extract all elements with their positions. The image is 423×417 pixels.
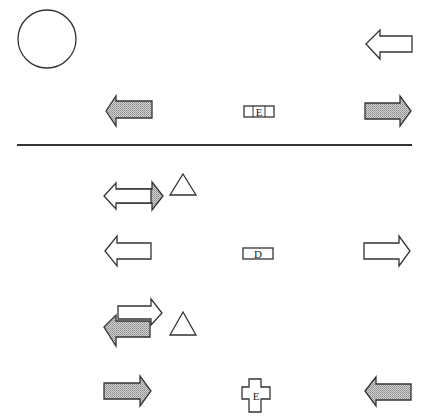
- left-arrow-icon: [105, 236, 151, 266]
- diagram-canvas: E D: [0, 0, 423, 417]
- row-4: E: [104, 376, 411, 412]
- right-arrow-icon: [364, 236, 410, 266]
- triangle-shape: [170, 174, 196, 195]
- right-arrow-icon: [365, 96, 411, 126]
- left-arrow-icon: [104, 183, 151, 209]
- left-arrow-icon: [106, 96, 152, 126]
- row-3: [104, 299, 196, 346]
- bottom-panel: D E: [104, 174, 411, 412]
- label-text: D: [254, 248, 262, 260]
- row-2: D: [105, 236, 410, 266]
- left-arrow-icon: [366, 30, 412, 59]
- triangle-shape: [170, 312, 196, 335]
- left-arrow-icon: [365, 377, 411, 406]
- label-box-d: D: [243, 248, 273, 260]
- label-text: E: [256, 106, 263, 118]
- label-box-e: E: [244, 106, 274, 118]
- row-1: [104, 174, 196, 210]
- label-cross-e: E: [242, 379, 270, 412]
- right-arrow-icon: [104, 376, 151, 406]
- circle-shape: [18, 10, 76, 68]
- top-panel: E: [18, 10, 412, 126]
- label-text: E: [253, 390, 260, 402]
